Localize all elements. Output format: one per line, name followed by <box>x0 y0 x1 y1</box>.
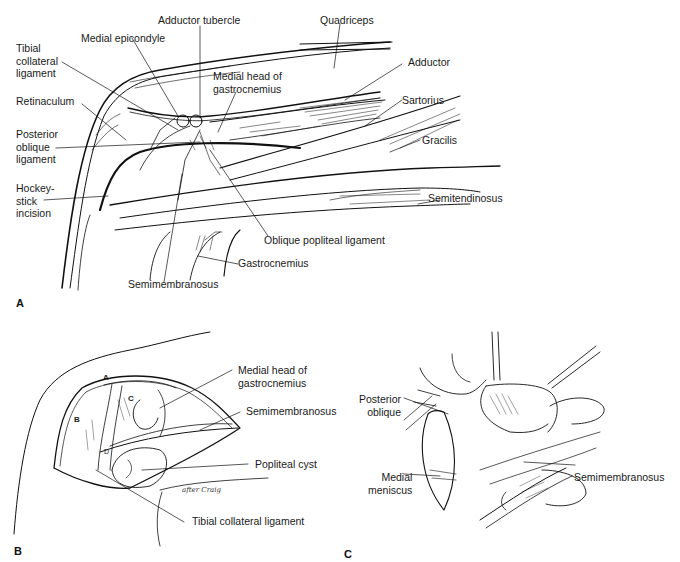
label-semitendinosus: Semitendinosus <box>428 192 503 205</box>
panel-letter-a: A <box>16 297 24 309</box>
inset-letter-a: A <box>103 372 109 385</box>
label-gastrocnemius: Gastrocnemius <box>238 257 309 270</box>
panel-letter-b: B <box>14 545 22 557</box>
label-gracilis: Gracilis <box>422 134 457 147</box>
label-medial-head-gastrocnemius: Medial head of gastrocnemius <box>213 70 282 95</box>
label-posterior-oblique-ligament: Posterior oblique ligament <box>16 128 58 166</box>
label-semimembranosus: Semimembranosus <box>128 278 218 291</box>
panel-letter-c: C <box>344 548 352 560</box>
label-b-tibial-collateral-ligament: Tibial collateral ligament <box>192 515 304 528</box>
label-tibial-collateral-ligament: Tibial collateral ligament <box>16 42 58 80</box>
label-quadriceps: Quadriceps <box>320 14 374 27</box>
label-b-medial-head-gastrocnemius: Medial head of gastrocnemius <box>238 364 307 389</box>
label-oblique-popliteal-ligament: Oblique popliteal ligament <box>264 234 385 247</box>
inset-letter-b: B <box>74 414 80 427</box>
label-adductor-tubercle: Adductor tubercle <box>158 14 240 27</box>
panel-b-drawing <box>14 332 268 546</box>
inset-letter-d: D <box>104 446 109 459</box>
label-retinaculum: Retinaculum <box>16 95 74 108</box>
label-c-posterior-oblique: Posterior oblique <box>359 393 401 418</box>
label-medial-epicondyle: Medial epicondyle <box>81 32 165 45</box>
label-b-popliteal-cyst: Popliteal cyst <box>255 458 317 471</box>
label-hockey-stick-incision: Hockey- stick incision <box>16 182 55 220</box>
label-c-medial-meniscus: Medial meniscus <box>368 471 412 496</box>
label-b-semimembranosus: Semimembranosus <box>246 405 336 418</box>
inset-letter-c: C <box>128 393 134 406</box>
label-c-semimembranosus: Semimembranosus <box>574 471 664 484</box>
label-adductor: Adductor <box>408 56 450 69</box>
panel-c-drawing <box>404 332 604 528</box>
label-sartorius: Sartorius <box>402 94 444 107</box>
artist-signature: after Craig <box>182 486 221 494</box>
